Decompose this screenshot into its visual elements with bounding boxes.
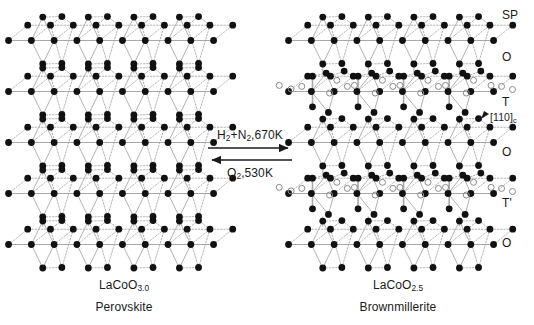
direction-arrow-icon — [481, 111, 490, 120]
left-phase-caption: Perovskite — [95, 300, 152, 314]
layer-label-sp: SP — [502, 8, 518, 22]
right-formula-caption: LaCoO2.5 — [373, 278, 423, 293]
forward-reaction-label: H2+N2,670K — [217, 128, 283, 143]
crystal-structure-transformation-figure: H2+N2,670K O2,530K SPOTOT'O [110]c LaCoO… — [0, 0, 534, 325]
reverse-reaction-label: O2,530K — [227, 166, 273, 181]
reaction-arrows: H2+N2,670K O2,530K — [206, 128, 294, 184]
right-phase-caption: Brownmillerite — [360, 300, 437, 314]
layer-label-o-3: O — [502, 236, 511, 250]
crystal-direction-label: [110]c — [490, 111, 517, 125]
layer-label-o-2: O — [502, 145, 511, 159]
left-formula-caption: LaCoO3.0 — [99, 278, 149, 293]
layer-label-t: T — [502, 95, 509, 109]
layer-label-o-1: O — [502, 50, 511, 64]
layer-label-t-prime: T' — [502, 196, 512, 210]
